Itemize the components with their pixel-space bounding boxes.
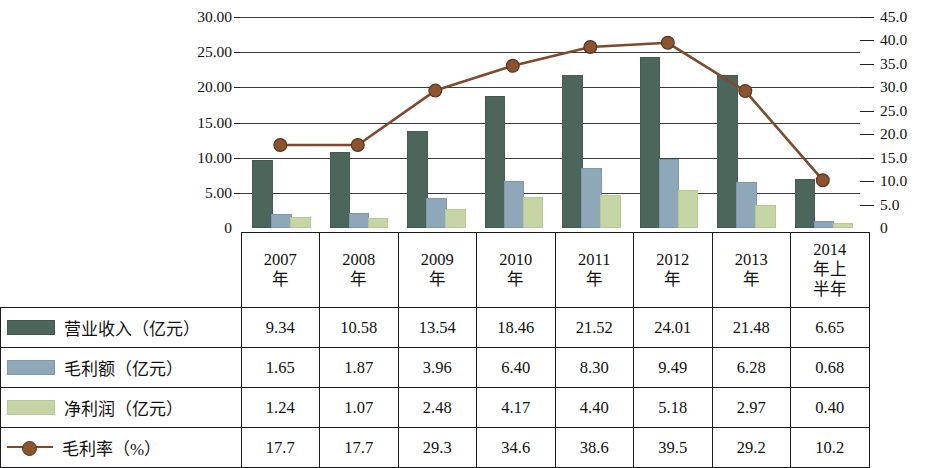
table-corner-cell [1, 233, 242, 308]
data-cell: 24.01 [634, 308, 713, 348]
line-marker-icon [7, 441, 53, 454]
gross-margin-marker: 2010年: 34.6% [506, 59, 519, 72]
year-header-cell: 2012年 [634, 233, 713, 308]
data-cell: 9.49 [634, 348, 713, 388]
table-tail-cell [869, 428, 950, 468]
gross-margin-marker: 2014年上半年: 10.2% [816, 174, 829, 187]
table-tail-cell [869, 233, 950, 308]
year-header-cell: 2013年 [712, 233, 791, 308]
year-header-cell: 2011年 [555, 233, 634, 308]
data-cell: 6.40 [477, 348, 556, 388]
left-axis-tick: 5.00 [150, 185, 232, 201]
table-tail-cell [869, 348, 950, 388]
right-axis-tick: 40.0 [880, 32, 944, 48]
data-table-panel: 2007年2008年2009年2010年2011年2012年2013年2014年… [0, 232, 950, 464]
legend-label: 毛利率（%） [62, 435, 161, 460]
left-axis-tick: 15.00 [150, 115, 232, 131]
right-axis-tick-mark [860, 134, 874, 135]
year-header-cell: 2007年 [241, 233, 320, 308]
data-cell: 4.17 [477, 388, 556, 428]
data-cell: 1.65 [241, 348, 320, 388]
gross-margin-marker: 2009年: 29.3% [429, 84, 442, 97]
data-cell: 38.6 [555, 428, 634, 468]
data-cell: 0.40 [791, 388, 870, 428]
data-cell: 6.28 [712, 348, 791, 388]
gross-margin-line [280, 43, 823, 180]
legend-label: 毛利额（亿元） [64, 355, 183, 380]
data-cell: 29.2 [712, 428, 791, 468]
right-axis-tick-mark [860, 158, 874, 159]
chart-canvas: 05.0010.0015.0020.0025.0030.00 05.010.01… [0, 0, 950, 232]
legend-cell[interactable]: 毛利额（亿元） [1, 348, 242, 388]
data-cell: 0.68 [791, 348, 870, 388]
legend-cell[interactable]: 营业收入（亿元） [1, 308, 242, 348]
gross-margin-marker: 2012年: 39.5% [661, 36, 674, 49]
left-axis-tick: 20.00 [150, 79, 232, 95]
legend-label: 营业收入（亿元） [64, 315, 200, 340]
right-axis-tick: 25.0 [880, 103, 944, 119]
right-axis-tick: 5.0 [880, 197, 944, 213]
right-axis-tick-mark [860, 111, 874, 112]
year-header-cell: 2009年 [398, 233, 477, 308]
legend-cell[interactable]: 净利润（亿元） [1, 388, 242, 428]
year-header-cell: 2010年 [477, 233, 556, 308]
left-axis-tick: 10.00 [150, 150, 232, 166]
right-axis-tick: 30.0 [880, 79, 944, 95]
data-table: 2007年2008年2009年2010年2011年2012年2013年2014年… [0, 232, 950, 468]
data-cell: 8.30 [555, 348, 634, 388]
right-axis-tick: 15.0 [880, 150, 944, 166]
data-cell: 34.6 [477, 428, 556, 468]
right-axis-tick-mark [860, 87, 874, 88]
table-tail-cell [869, 388, 950, 428]
gross-margin-marker: 2008年: 17.7% [351, 139, 364, 152]
table-row: 毛利额（亿元）1.651.873.966.408.309.496.280.68 [1, 348, 950, 388]
data-cell: 10.2 [791, 428, 870, 468]
data-cell: 18.46 [477, 308, 556, 348]
gross-margin-marker: 2011年: 38.6% [584, 41, 597, 54]
gross-margin-marker: 2007年: 17.7% [274, 139, 287, 152]
gross-margin-line-series: 2007年: 17.7%2008年: 17.7%2009年: 29.3%2010… [240, 17, 860, 228]
data-cell: 3.96 [398, 348, 477, 388]
data-cell: 2.48 [398, 388, 477, 428]
legend-cell[interactable]: 毛利率（%） [1, 428, 242, 468]
table-header-row: 2007年2008年2009年2010年2011年2012年2013年2014年… [1, 233, 950, 308]
data-cell: 21.48 [712, 308, 791, 348]
color-swatch-gp [7, 360, 55, 375]
data-cell: 6.65 [791, 308, 870, 348]
data-cell: 5.18 [634, 388, 713, 428]
left-axis-tick: 30.00 [150, 9, 232, 25]
table-row: 营业收入（亿元）9.3410.5813.5418.4621.5224.0121.… [1, 308, 950, 348]
gross-margin-marker: 2013年: 29.2% [739, 85, 752, 98]
table-tail-cell [869, 308, 950, 348]
legend-label: 净利润（亿元） [64, 395, 183, 420]
left-axis-tick: 25.00 [150, 44, 232, 60]
data-cell: 4.40 [555, 388, 634, 428]
year-header-cell: 2014年上半年 [791, 233, 870, 308]
right-axis-tick-mark [860, 64, 874, 65]
data-cell: 10.58 [320, 308, 399, 348]
data-cell: 17.7 [241, 428, 320, 468]
data-cell: 1.24 [241, 388, 320, 428]
plot-area: 2007年: 17.7%2008年: 17.7%2009年: 29.3%2010… [240, 17, 860, 228]
data-cell: 39.5 [634, 428, 713, 468]
data-cell: 21.52 [555, 308, 634, 348]
table-row: 毛利率（%）17.717.729.334.638.639.529.210.2 [1, 428, 950, 468]
right-axis-tick: 35.0 [880, 56, 944, 72]
data-cell: 17.7 [320, 428, 399, 468]
right-axis-tick-mark [860, 17, 874, 18]
color-swatch-np [7, 400, 55, 415]
data-cell: 9.34 [241, 308, 320, 348]
data-cell: 13.54 [398, 308, 477, 348]
data-cell: 29.3 [398, 428, 477, 468]
right-axis-tick-mark [860, 40, 874, 41]
year-header-cell: 2008年 [320, 233, 399, 308]
data-cell: 2.97 [712, 388, 791, 428]
data-cell: 1.87 [320, 348, 399, 388]
right-axis-tick-mark [860, 181, 874, 182]
color-swatch-rev [7, 320, 55, 335]
table-row: 净利润（亿元）1.241.072.484.174.405.182.970.40 [1, 388, 950, 428]
data-cell: 1.07 [320, 388, 399, 428]
right-axis-tick: 10.0 [880, 173, 944, 189]
right-axis-tick: 45.0 [880, 9, 944, 25]
